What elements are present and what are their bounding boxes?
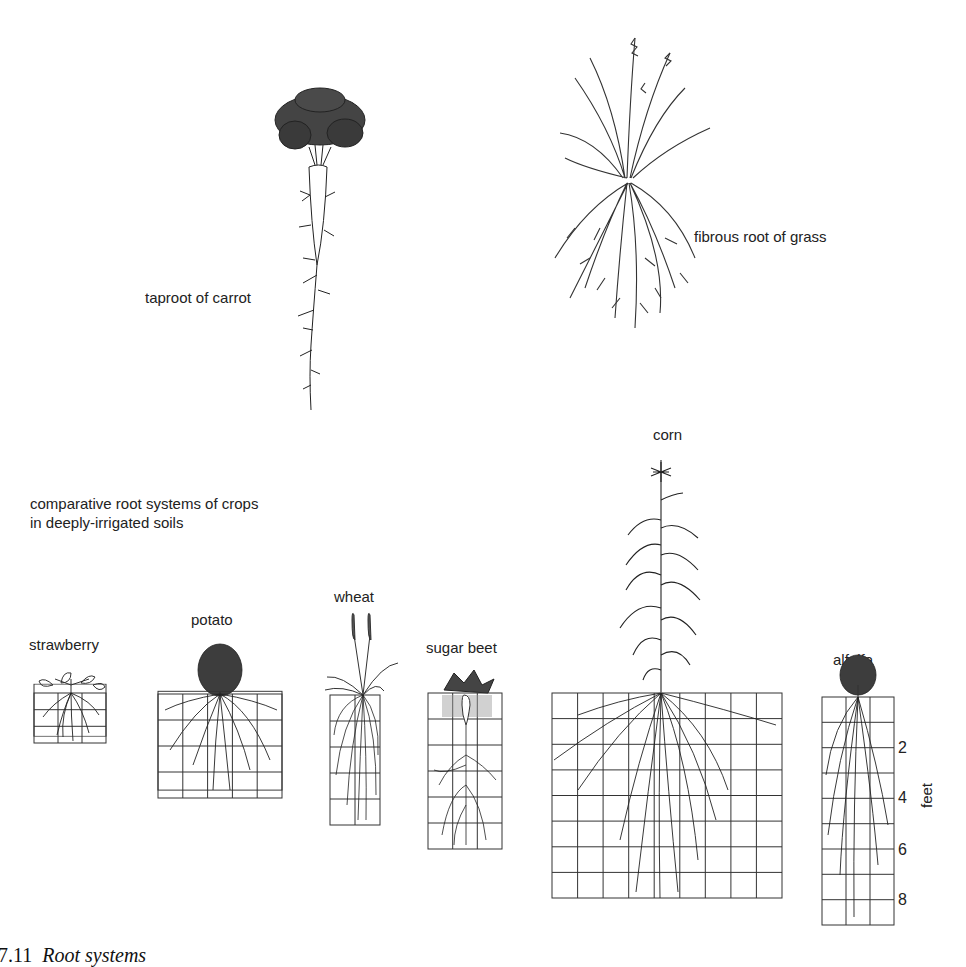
crop-label-corn: corn [653, 426, 682, 443]
potato-grid [155, 640, 285, 780]
sugar-beet-grid [424, 665, 508, 885]
caption-title: Root systems [42, 944, 146, 966]
caption-number: 7.11 [0, 944, 32, 966]
crop-label-wheat: wheat [334, 588, 374, 605]
grass-fibrous-root-icon [545, 28, 725, 338]
scale-tick-8: 8 [898, 891, 907, 909]
corn-grid [548, 460, 788, 910]
subtitle-line-1: comparative root systems of crops [30, 495, 258, 512]
wheat-grid [322, 605, 402, 845]
scale-tick-6: 6 [898, 841, 907, 859]
crop-label-strawberry: strawberry [29, 636, 99, 653]
scale-unit-label: feet [918, 783, 935, 808]
scale-tick-2: 2 [898, 739, 907, 757]
subtitle-line-2: in deeply-irrigated soils [30, 514, 183, 531]
figure-caption: 7.11 Root systems [0, 944, 146, 967]
alfalfa-grid [818, 655, 898, 925]
strawberry-grid [33, 665, 109, 745]
crop-label-sugar-beet: sugar beet [426, 639, 497, 656]
crop-label-potato: potato [191, 611, 233, 628]
carrot-label: taproot of carrot [145, 289, 251, 306]
scale-tick-4: 4 [898, 789, 907, 807]
grass-label: fibrous root of grass [694, 228, 827, 245]
carrot-taproot-icon [265, 85, 385, 415]
